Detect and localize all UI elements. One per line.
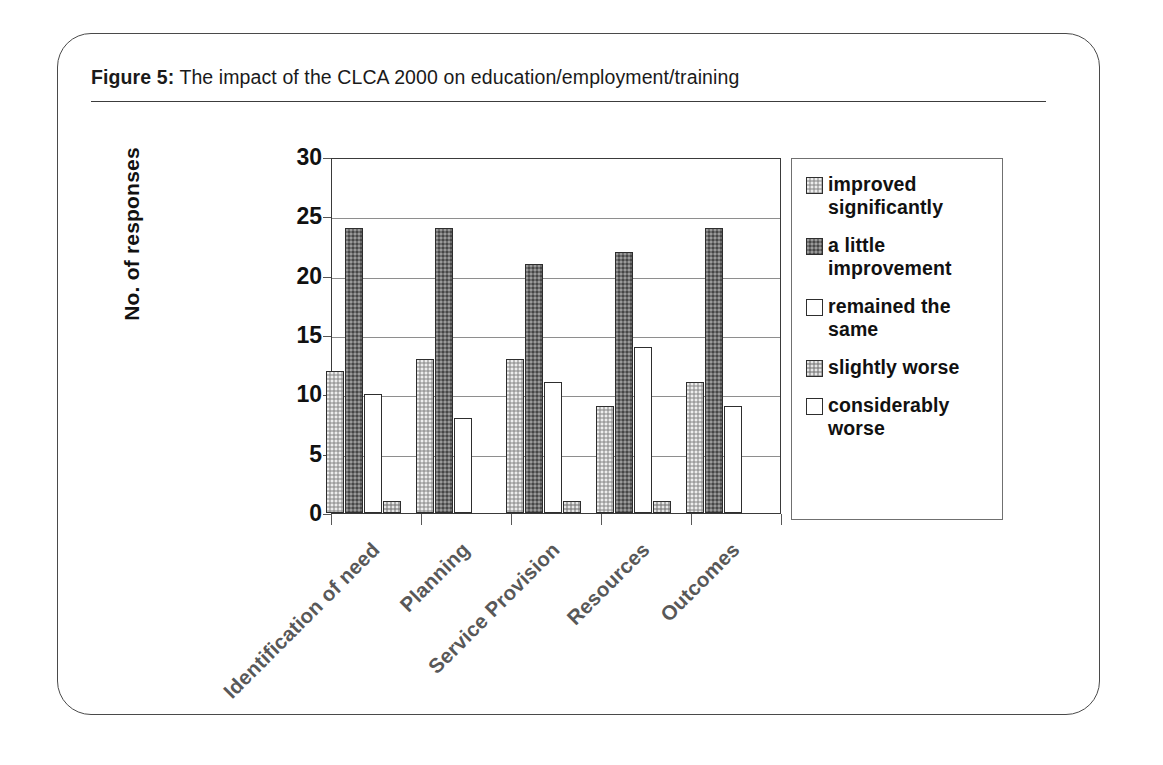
figure-caption: Figure 5: The impact of the CLCA 2000 on… xyxy=(91,66,1021,89)
legend-item-considerably-worse[interactable]: considerably worse xyxy=(806,394,994,440)
y-tick-label: 25 xyxy=(278,205,322,228)
legend-swatch-icon xyxy=(806,238,823,255)
bar-resources-a-little-improvement xyxy=(615,252,633,513)
bar-resources-improved-significantly xyxy=(596,406,614,513)
figure-card: Figure 5: The impact of the CLCA 2000 on… xyxy=(57,33,1100,715)
x-tick-mark xyxy=(511,514,512,525)
bar-outcomes-a-little-improvement xyxy=(705,228,723,513)
bar-service-provision-a-little-improvement xyxy=(525,264,543,513)
plot-area xyxy=(331,158,781,514)
y-tick-label: 20 xyxy=(278,265,322,288)
bar-outcomes-improved-significantly xyxy=(686,382,704,513)
x-tick-mark xyxy=(601,514,602,525)
x-tick-mark xyxy=(781,514,782,525)
bar-identification-of-need-remained-the-same xyxy=(364,394,382,513)
legend-label: a little improvement xyxy=(828,234,994,280)
x-tick-mark xyxy=(331,514,332,525)
y-axis-ticks: 051015202530 xyxy=(266,158,322,514)
y-tick-label: 10 xyxy=(278,383,322,406)
legend-item-remained-the-same[interactable]: remained the same xyxy=(806,295,994,341)
x-tick-mark xyxy=(691,514,692,525)
y-tick-label: 15 xyxy=(278,324,322,347)
caption-divider xyxy=(91,101,1046,102)
legend-swatch-icon xyxy=(806,299,823,316)
bar-identification-of-need-a-little-improvement xyxy=(345,228,363,513)
bar-resources-slightly-worse xyxy=(653,501,671,513)
legend-label: slightly worse xyxy=(828,356,959,379)
legend-swatch-icon xyxy=(806,177,823,194)
bar-outcomes-remained-the-same xyxy=(724,406,742,513)
bar-identification-of-need-improved-significantly xyxy=(326,371,344,513)
bar-planning-remained-the-same xyxy=(454,418,472,513)
y-tick-label: 30 xyxy=(278,146,322,169)
chart-area: No. of responses 051015202530 Identifica… xyxy=(58,114,1101,714)
legend-item-a-little-improvement[interactable]: a little improvement xyxy=(806,234,994,280)
bar-identification-of-need-slightly-worse xyxy=(383,501,401,513)
legend-item-improved-significantly[interactable]: improved significantly xyxy=(806,173,994,219)
y-tick-label: 5 xyxy=(278,443,322,466)
bar-planning-improved-significantly xyxy=(416,359,434,513)
y-tick-label: 0 xyxy=(278,502,322,525)
bar-service-provision-slightly-worse xyxy=(563,501,581,513)
legend-swatch-icon xyxy=(806,360,823,377)
bar-planning-a-little-improvement xyxy=(435,228,453,513)
figure-number-label: Figure 5: xyxy=(91,66,174,88)
bar-resources-remained-the-same xyxy=(634,347,652,513)
legend-swatch-icon xyxy=(806,398,823,415)
legend-item-slightly-worse[interactable]: slightly worse xyxy=(806,356,994,379)
bar-service-provision-improved-significantly xyxy=(506,359,524,513)
figure-caption-text: The impact of the CLCA 2000 on education… xyxy=(174,66,739,88)
x-tick-mark xyxy=(421,514,422,525)
legend-label: improved significantly xyxy=(828,173,994,219)
legend-label: remained the same xyxy=(828,295,994,341)
chart-legend: improved significantlya little improveme… xyxy=(791,158,1003,520)
legend-label: considerably worse xyxy=(828,394,994,440)
gridline xyxy=(332,218,780,219)
y-axis-title: No. of responses xyxy=(120,114,144,354)
bar-service-provision-remained-the-same xyxy=(544,382,562,513)
